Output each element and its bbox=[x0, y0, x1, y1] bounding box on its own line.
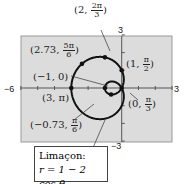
y-max-tick: 3 bbox=[118, 25, 123, 35]
data-point bbox=[109, 92, 114, 97]
data-point bbox=[80, 62, 85, 67]
caption-equation: r = 1 − 2 cos θ bbox=[39, 163, 103, 184]
x-min-tick: −6 bbox=[4, 84, 14, 94]
point-label-2.73-5pi6: (2.73, 5π6) bbox=[30, 42, 79, 59]
y-min-tick: −3 bbox=[111, 141, 121, 151]
data-point bbox=[69, 86, 74, 91]
data-point bbox=[119, 68, 124, 73]
x-max-tick: 3 bbox=[174, 84, 179, 94]
data-point bbox=[119, 86, 124, 91]
point-label-0-pi3: (0, π3) bbox=[128, 96, 156, 113]
data-point bbox=[103, 86, 108, 91]
point-label-3-pi: (3, π) bbox=[42, 93, 69, 103]
point-label-2-2pi3: (2, 2π3) bbox=[74, 2, 107, 19]
caption-title: Limaçon: bbox=[39, 149, 103, 163]
point-label-1-pi2: (1, π2) bbox=[126, 56, 154, 73]
point-label-neg0.73-pi6: (−0.73, π6) bbox=[30, 117, 82, 134]
equation-caption: Limaçon: r = 1 − 2 cos θ bbox=[34, 146, 108, 182]
point-label-neg1-0: (−1, 0) bbox=[33, 72, 68, 82]
data-point bbox=[103, 55, 108, 60]
